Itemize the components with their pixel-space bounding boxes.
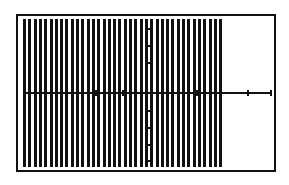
y-tick bbox=[146, 160, 151, 162]
x-tick bbox=[172, 90, 174, 96]
x-tick bbox=[247, 90, 249, 96]
x-axis bbox=[23, 92, 270, 94]
y-tick bbox=[146, 45, 151, 47]
y-tick bbox=[146, 127, 151, 129]
y-tick bbox=[146, 62, 151, 64]
x-tick bbox=[196, 90, 198, 96]
y-tick bbox=[146, 144, 151, 146]
y-tick bbox=[146, 28, 151, 30]
x-tick bbox=[122, 90, 124, 96]
x-tick bbox=[95, 90, 97, 96]
graph-window bbox=[16, 14, 276, 172]
y-tick bbox=[146, 110, 151, 112]
x-tick bbox=[270, 90, 272, 96]
